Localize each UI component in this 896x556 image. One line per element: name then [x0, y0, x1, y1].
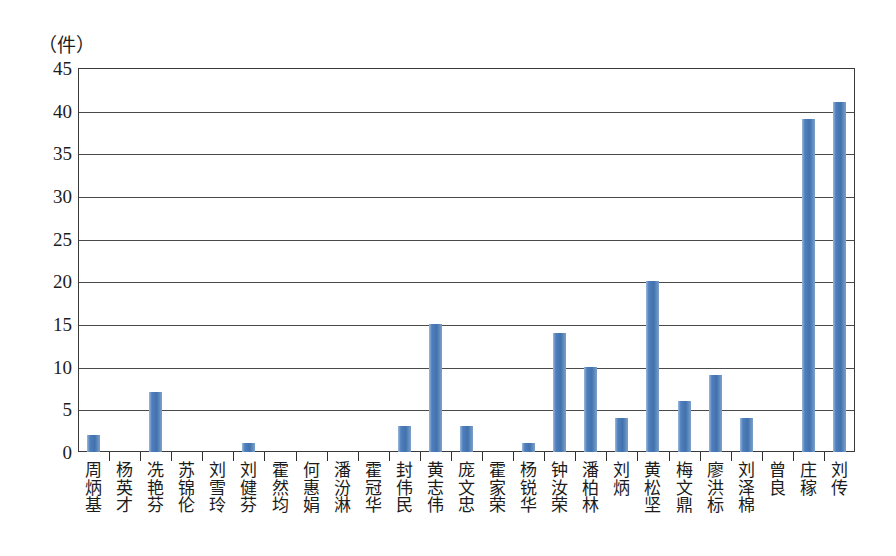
- x-category-label-char: 封: [389, 462, 419, 480]
- x-category-label: 廖洪标: [700, 462, 730, 515]
- x-tick: [171, 452, 172, 461]
- x-category-label-char: 荣: [483, 497, 513, 515]
- x-category-label: 杨锐华: [514, 462, 544, 515]
- x-category-label-char: 基: [79, 497, 109, 515]
- x-category-label: 霍家荣: [483, 462, 513, 515]
- gridline: [79, 112, 854, 113]
- x-category-label-char: 曾: [762, 462, 792, 480]
- x-category-label-char: 刘: [731, 462, 761, 480]
- x-category-label-char: 炳: [607, 480, 637, 498]
- y-tick-label: 45: [32, 59, 72, 78]
- x-category-label: 周炳基: [79, 462, 109, 515]
- x-category-label: 杨英才: [110, 462, 140, 515]
- x-category-label: 庄稼: [793, 462, 823, 497]
- x-category-label-char: 娟: [296, 497, 326, 515]
- x-category-label-char: 民: [389, 497, 419, 515]
- plot-area: [78, 68, 855, 452]
- x-tick: [544, 452, 545, 461]
- x-tick: [420, 452, 421, 461]
- y-tick-label: 25: [32, 230, 72, 249]
- x-tick: [669, 452, 670, 461]
- y-tick-label: 30: [32, 187, 72, 206]
- y-tick-label: 0: [32, 443, 72, 462]
- gridline: [79, 282, 854, 283]
- gridline: [79, 325, 854, 326]
- x-category-label: 庞文忠: [452, 462, 482, 515]
- x-category-label-char: 华: [358, 497, 388, 515]
- x-category-label: 钟汝荣: [545, 462, 575, 515]
- x-category-label-char: 稼: [793, 480, 823, 498]
- x-category-label-char: 黄: [420, 462, 450, 480]
- x-category-label-char: 忠: [452, 497, 482, 515]
- y-tick-label: 5: [32, 400, 72, 419]
- x-tick: [606, 452, 607, 461]
- gridline: [79, 410, 854, 411]
- x-category-label-char: 杨: [110, 462, 140, 480]
- x-category-label: 黄志伟: [420, 462, 450, 515]
- y-tick-label: 40: [32, 102, 72, 121]
- y-axis-unit-label: （件）: [38, 30, 95, 57]
- x-category-label: 刘健芬: [234, 462, 264, 515]
- x-tick: [389, 452, 390, 461]
- x-category-label-char: 黄: [638, 462, 668, 480]
- x-axis-category-labels: 周炳基杨英才冼艳芬苏锦伦刘雪玲刘健芬霍然均何惠娟潘汾淋霍冠华封伟民黄志伟庞文忠霍…: [78, 462, 855, 554]
- x-tick: [264, 452, 265, 461]
- x-category-label: 刘传: [824, 462, 854, 497]
- x-category-label-char: 棉: [731, 497, 761, 515]
- x-tick: [109, 452, 110, 461]
- x-tick: [482, 452, 483, 461]
- x-category-label-char: 才: [110, 497, 140, 515]
- y-tick-label: 35: [32, 144, 72, 163]
- gridline: [79, 240, 854, 241]
- x-category-label-char: 苏: [172, 462, 202, 480]
- x-category-label-char: 良: [762, 480, 792, 498]
- x-tick: [233, 452, 234, 461]
- x-category-label-char: 霍: [358, 462, 388, 480]
- x-category-label: 潘柏林: [576, 462, 606, 515]
- x-category-label-char: 芬: [141, 497, 171, 515]
- x-category-label: 封伟民: [389, 462, 419, 515]
- x-tick: [296, 452, 297, 461]
- x-tick: [762, 452, 763, 461]
- x-tick: [202, 452, 203, 461]
- x-tick: [731, 452, 732, 461]
- x-category-label: 刘泽棉: [731, 462, 761, 515]
- x-category-label-char: 标: [700, 497, 730, 515]
- x-category-label: 冼艳芬: [141, 462, 171, 515]
- y-tick-label: 15: [32, 315, 72, 334]
- x-category-label: 梅文鼎: [669, 462, 699, 515]
- x-category-label-char: 鼎: [669, 497, 699, 515]
- x-tick: [140, 452, 141, 461]
- x-category-label: 黄松坚: [638, 462, 668, 515]
- y-tick-label: 20: [32, 272, 72, 291]
- y-tick-label: 10: [32, 358, 72, 377]
- gridline: [79, 197, 854, 198]
- x-category-label-char: 刘: [234, 462, 264, 480]
- x-tick: [358, 452, 359, 461]
- x-category-label-char: 潘: [327, 462, 357, 480]
- x-category-label-char: 周: [79, 462, 109, 480]
- x-category-label-char: 霍: [265, 462, 295, 480]
- x-category-label-char: 刘: [203, 462, 233, 480]
- x-category-label: 刘炳: [607, 462, 637, 497]
- x-category-label-char: 林: [576, 497, 606, 515]
- x-category-label-char: 冼: [141, 462, 171, 480]
- x-tick: [513, 452, 514, 461]
- y-axis-tick-labels: 454035302520151050: [28, 68, 72, 452]
- x-category-label-char: 伟: [420, 497, 450, 515]
- x-category-label-char: 杨: [514, 462, 544, 480]
- gridline: [79, 368, 854, 369]
- x-category-label-char: 霍: [483, 462, 513, 480]
- x-tick: [327, 452, 328, 461]
- x-tick: [700, 452, 701, 461]
- x-category-label-char: 传: [824, 480, 854, 498]
- x-category-label: 苏锦伦: [172, 462, 202, 515]
- x-category-label-char: 庞: [452, 462, 482, 480]
- x-tick: [637, 452, 638, 461]
- x-category-label: 霍冠华: [358, 462, 388, 515]
- x-category-label: 潘汾淋: [327, 462, 357, 515]
- x-category-label-char: 伦: [172, 497, 202, 515]
- x-category-label: 曾良: [762, 462, 792, 497]
- x-category-label-char: 芬: [234, 497, 264, 515]
- x-category-label-char: 廖: [700, 462, 730, 480]
